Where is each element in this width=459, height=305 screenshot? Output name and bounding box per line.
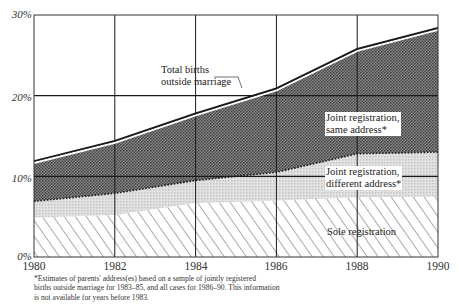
y-tick-label: 10% — [2, 172, 32, 184]
annotation-different-address: Joint registration, different address* — [325, 166, 402, 190]
annotation-line: Joint registration, — [326, 112, 400, 124]
stacked-area-chart — [0, 0, 459, 305]
y-tick-label: 30% — [2, 8, 32, 20]
x-tick-label: 1988 — [337, 260, 377, 272]
footnote-line: is not available for years before 1983. — [34, 293, 364, 302]
plot-areas — [34, 28, 438, 257]
x-tick-label: 1990 — [418, 260, 458, 272]
annotation-line: Joint registration, — [326, 166, 401, 178]
annotation-line: Total births — [161, 64, 231, 76]
footnote: *Estimates of parents' address(es) based… — [34, 274, 364, 302]
footnote-line: births outside marriage for 1983–85, and… — [34, 283, 364, 292]
y-tick-label: 20% — [2, 91, 32, 103]
annotation-sole-registration: Sole registration — [326, 226, 397, 238]
footnote-line: *Estimates of parents' address(es) based… — [34, 274, 364, 283]
annotation-line: same address* — [326, 124, 400, 136]
x-tick-label: 1980 — [14, 260, 54, 272]
annotation-total-births: Total births outside marriage — [160, 64, 232, 88]
annotation-line: outside marriage — [161, 76, 231, 88]
annotation-line: different address* — [326, 178, 401, 190]
annotation-same-address: Joint registration, same address* — [325, 112, 401, 136]
x-tick-label: 1982 — [95, 260, 135, 272]
x-tick-label: 1984 — [176, 260, 216, 272]
x-tick-label: 1986 — [256, 260, 296, 272]
